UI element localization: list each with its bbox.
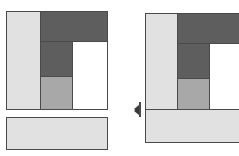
handle-stem-icon — [139, 102, 141, 117]
arrow-head-lower-icon — [134, 107, 139, 115]
figure-canvas — [0, 0, 239, 156]
right-sidebar-block[interactable] — [145, 13, 178, 110]
right-figure — [0, 0, 239, 156]
right-aside-block[interactable] — [177, 78, 210, 110]
resize-handle-icon[interactable] — [134, 102, 142, 117]
right-nav-block[interactable] — [177, 43, 210, 79]
right-footer-block[interactable] — [145, 109, 239, 143]
right-header-block[interactable] — [177, 13, 239, 44]
right-content-block[interactable] — [209, 43, 239, 110]
